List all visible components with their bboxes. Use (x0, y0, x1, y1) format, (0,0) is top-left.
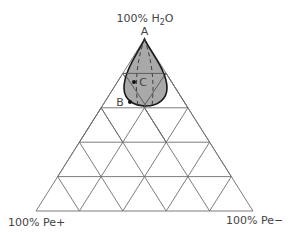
ternary-diagram: A B C 100% H2O 100% Pe+ 100% Pe− (0, 0, 298, 240)
drop-region (124, 39, 167, 106)
bottom-left-vertex-label: 100% Pe+ (8, 216, 65, 229)
point-a-label: A (141, 25, 149, 38)
bottom-right-vertex-label: 100% Pe− (226, 214, 283, 227)
point-b-label: B (116, 96, 124, 109)
point-c-marker (132, 80, 136, 84)
ternary-plot: A B C 100% H2O 100% Pe+ 100% Pe− (0, 0, 298, 240)
point-b-marker (128, 100, 132, 104)
point-c-label: C (139, 76, 147, 89)
top-vertex-label: 100% H2O (117, 12, 174, 27)
